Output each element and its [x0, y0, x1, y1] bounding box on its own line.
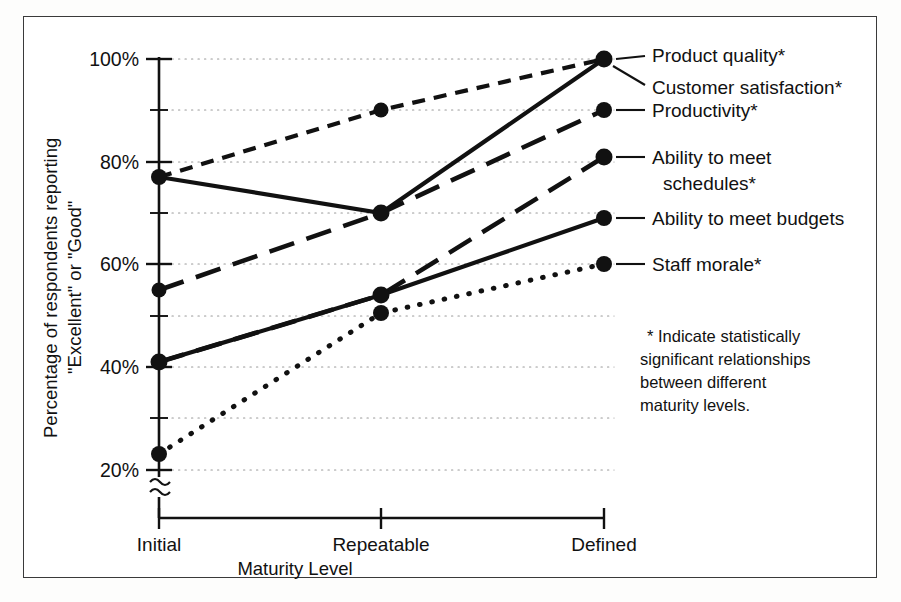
- x-category-labels: Initial Repeatable Defined: [137, 534, 637, 555]
- marker-staff-morale-initial: [151, 446, 167, 462]
- legend-item-ability-meet-budgets[interactable]: Ability to meet budgets: [652, 208, 844, 229]
- y-tick-labels: 100% 80% 60% 40% 20%: [89, 48, 139, 481]
- y-tick-label-20: 20%: [100, 459, 139, 481]
- note-line-2: significant relationships: [640, 350, 811, 368]
- axis-break-mark: [150, 479, 170, 495]
- note-line-3: between different: [640, 373, 767, 391]
- y-tick-label-60: 60%: [100, 253, 139, 275]
- marker-staff-morale-defined: [596, 256, 612, 272]
- y-tick-label-40: 40%: [100, 356, 139, 378]
- x-label-defined: Defined: [571, 534, 637, 555]
- marker-ability-budgets-defined: [596, 210, 612, 226]
- x-label-initial: Initial: [137, 534, 181, 555]
- y-axis-title-line2: "Excellent" or "Good": [64, 201, 85, 374]
- y-axis-title: Percentage of respondents reporting "Exc…: [40, 138, 85, 438]
- figure-container: 100% 80% 60% 40% 20% Percentage of respo…: [0, 0, 901, 602]
- marker-product-quality-initial: [151, 169, 167, 185]
- marker-staff-morale-repeatable: [373, 305, 389, 321]
- leader-product-quality: [616, 56, 645, 59]
- marker-ability-schedules-initial: [151, 354, 168, 371]
- y-tick-label-80: 80%: [100, 151, 139, 173]
- note-line-4: maturity levels.: [640, 396, 750, 414]
- legend-labels: Product quality* Customer satisfaction* …: [652, 45, 844, 275]
- marker-product-quality-defined: [596, 51, 613, 68]
- legend-item-productivity[interactable]: Productivity*: [652, 100, 758, 121]
- data-point-markers: [151, 51, 613, 463]
- legend-item-ability-meet-schedules-line2[interactable]: schedules*: [663, 173, 757, 194]
- y-axis-title-line1: Percentage of respondents reporting: [40, 138, 61, 438]
- legend-item-product-quality[interactable]: Product quality*: [652, 45, 786, 66]
- x-axis-title: Maturity Level: [237, 558, 352, 579]
- marker-ability-schedules-defined: [596, 149, 613, 166]
- marker-product-quality-repeatable: [373, 205, 390, 222]
- legend-item-ability-meet-schedules-line1[interactable]: Ability to meet: [652, 147, 772, 168]
- leader-customer-satisfaction: [613, 66, 645, 85]
- marker-ability-schedules-repeatable: [373, 287, 390, 304]
- note-line-1: * Indicate statistically: [647, 327, 801, 345]
- legend-item-staff-morale[interactable]: Staff morale*: [652, 254, 762, 275]
- legend-item-customer-satisfaction[interactable]: Customer satisfaction*: [652, 77, 843, 98]
- gridlines: [159, 59, 614, 470]
- marker-customer-satisfaction-repeatable: [374, 103, 389, 118]
- x-label-repeatable: Repeatable: [332, 534, 429, 555]
- marker-productivity-defined: [596, 102, 612, 118]
- marker-productivity-initial: [152, 283, 167, 298]
- y-tick-label-100: 100%: [89, 48, 139, 70]
- significance-note: * Indicate statistically significant rel…: [640, 327, 811, 414]
- series-line-product-quality: [159, 59, 604, 213]
- legend-leader-lines: [613, 56, 645, 264]
- line-chart-svg: 100% 80% 60% 40% 20% Percentage of respo…: [0, 0, 901, 602]
- series-line-customer-satisfaction: [159, 59, 604, 177]
